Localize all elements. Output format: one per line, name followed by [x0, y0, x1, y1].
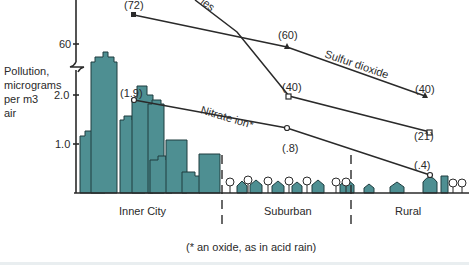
footnote: (* an oxide, as in acid rain): [186, 241, 316, 253]
label-40-so2: (40): [415, 83, 435, 95]
label-40: (40): [282, 81, 302, 93]
series-label-nitrate: Nitrate ion*: [199, 103, 255, 131]
label-60: (60): [278, 29, 298, 41]
inner-city-buildings: [80, 52, 220, 193]
label-72: (72): [124, 0, 144, 11]
label-1-9: (1.9): [120, 87, 143, 99]
tick-2: 2.0: [54, 89, 69, 101]
series-label-top: ies: [199, 0, 218, 14]
region-rural: Rural: [395, 205, 421, 217]
label-21: (21): [414, 130, 434, 142]
region-suburban: Suburban: [264, 205, 312, 217]
label-0-8: (.8): [282, 142, 299, 154]
region-inner-city: Inner City: [119, 205, 167, 217]
label-0-4: (.4): [414, 159, 431, 171]
pollution-chart: 60 2.0 1.0: [0, 0, 469, 265]
tick-1: 1.0: [55, 138, 70, 150]
tick-60: 60: [59, 38, 71, 50]
